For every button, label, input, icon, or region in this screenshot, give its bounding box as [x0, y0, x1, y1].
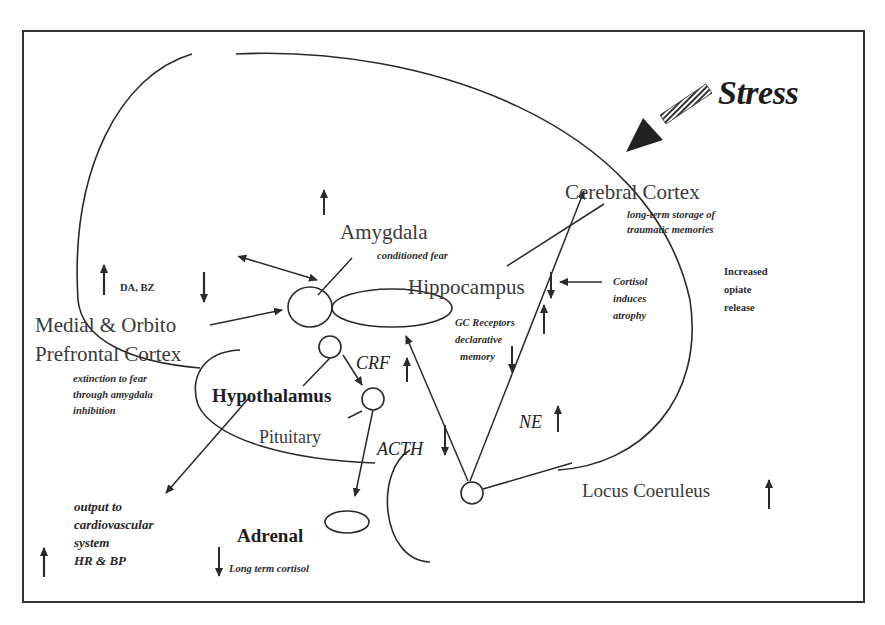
- extinction-note-line2: through amygdala: [73, 387, 153, 402]
- output-note-line3: system: [74, 533, 109, 552]
- gc-receptors-note-line2: declarative: [455, 332, 502, 347]
- prefrontal-to-amygdala-arrow: [210, 310, 282, 325]
- amygdala-note: conditioned fear: [377, 248, 448, 263]
- hypothalamus-to-cardiovascular-arrow: [166, 399, 248, 493]
- cerebral-cortex-label: Cerebral Cortex: [565, 182, 700, 203]
- adrenal-node: [325, 511, 369, 533]
- amygdala-label: Amygdala: [340, 222, 427, 243]
- gc-receptors-note-line3: memory: [460, 349, 495, 364]
- stress-arrow: [626, 84, 712, 152]
- lc-label-line: [483, 463, 572, 489]
- prefrontal-amygdala-bidirectional-arrow: [244, 258, 317, 280]
- brain-outline-right: [236, 53, 692, 470]
- hippocampus-cortex-line: [507, 204, 604, 266]
- acth-label: ACTH: [377, 440, 423, 458]
- hippocampus-label: Hippocampus: [408, 277, 525, 298]
- extinction-note-line3: inhibition: [73, 403, 116, 418]
- output-note-line2: cardiovascular: [74, 515, 153, 534]
- output-note-line1: output to: [74, 497, 122, 516]
- amygdala-node: [288, 287, 332, 327]
- gc-receptors-note-line1: GC Receptors: [455, 315, 515, 330]
- adrenal-label: Adrenal: [237, 526, 303, 545]
- output-note-line4: HR & BP: [74, 551, 126, 570]
- cortex-note-line2: traumatic memories: [627, 222, 714, 237]
- brainstem-curve: [387, 450, 430, 562]
- pituitary-tick: [348, 411, 362, 418]
- hypothalamus-label: Hypothalamus: [212, 386, 331, 405]
- adrenal-note: Long term cortisol: [229, 561, 309, 576]
- lc-to-hippocampus-arrow: [406, 336, 468, 481]
- cortisol-note-line2: induces: [613, 291, 646, 306]
- crf-label: CRF: [356, 354, 390, 372]
- opiate-note-line3: release: [724, 300, 755, 316]
- locus-coeruleus-label: Locus Coeruleus: [582, 481, 710, 500]
- pituitary-label: Pituitary: [259, 428, 321, 446]
- acth-to-adrenal-arrow: [355, 410, 373, 496]
- stress-label: Stress: [718, 76, 798, 110]
- hypothalamus-node: [319, 336, 341, 358]
- da-bz-label: DA, BZ: [120, 280, 154, 296]
- cortisol-note-line3: atrophy: [613, 308, 646, 323]
- amygdala-label-line: [318, 258, 352, 295]
- pituitary-node: [362, 388, 384, 410]
- prefrontal-label-line1: Medial & Orbito: [35, 315, 176, 336]
- opiate-note-line2: opiate: [724, 282, 751, 298]
- cortisol-note-line1: Cortisol: [613, 274, 647, 289]
- extinction-note-line1: extinction to fear: [73, 371, 147, 386]
- opiate-note-line1: Increased: [724, 264, 768, 280]
- locus-coeruleus-node: [461, 482, 483, 504]
- ne-label: NE: [519, 413, 542, 431]
- prefrontal-label-line2: Prefrontal Cortex: [35, 344, 181, 365]
- hypothalamus-label-line: [303, 358, 330, 386]
- stress-neurocircuitry-diagram: Stress Cerebral Cortex long-term storage…: [0, 0, 885, 625]
- cortex-note-line1: long-term storage of: [627, 207, 715, 222]
